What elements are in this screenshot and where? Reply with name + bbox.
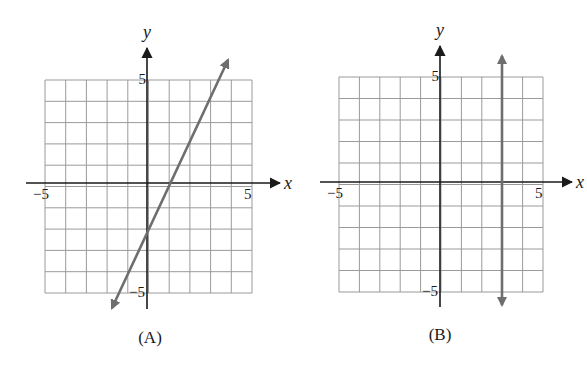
panel-label: (A) bbox=[138, 328, 162, 347]
x-tick-label-neg5: −5 bbox=[327, 185, 343, 201]
figure: x y −5 5 5 −5 (A) x y −5 5 5 −5 (B) bbox=[0, 0, 587, 371]
grid bbox=[339, 77, 543, 292]
x-axis-label: x bbox=[575, 172, 584, 192]
y-axis-label: y bbox=[434, 20, 444, 40]
panel-label: (B) bbox=[429, 325, 452, 344]
y-tick-label-5: 5 bbox=[432, 68, 440, 84]
y-axis-label: y bbox=[141, 22, 151, 42]
y-tick-label-neg5: −5 bbox=[422, 283, 438, 299]
x-tick-label-5: 5 bbox=[535, 185, 543, 201]
graph-a: x y −5 5 5 −5 (A) bbox=[26, 22, 292, 347]
graph-b: x y −5 5 5 −5 (B) bbox=[320, 20, 584, 344]
x-tick-label-neg5: −5 bbox=[33, 186, 49, 202]
y-tick-label-5: 5 bbox=[139, 71, 147, 87]
grid bbox=[45, 80, 252, 293]
y-tick-label-neg5: −5 bbox=[129, 284, 145, 300]
x-tick-label-5: 5 bbox=[244, 186, 252, 202]
x-axis-label: x bbox=[283, 173, 292, 193]
